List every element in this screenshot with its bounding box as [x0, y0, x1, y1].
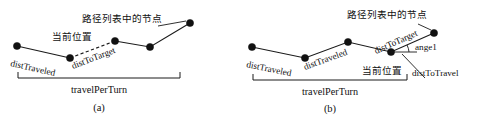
dist-traveled-label: distTraveled: [10, 58, 57, 78]
path-node: [430, 29, 437, 36]
travel-per-turn-label: travelPerTurn: [302, 86, 358, 97]
path-node: [13, 42, 20, 49]
angle-arc: [407, 45, 409, 52]
figure-container: 路径列表中的节点 当前位置 distTraveled distToTarget …: [0, 0, 482, 120]
path-segment-a1: [17, 46, 70, 58]
path-node: [344, 38, 351, 45]
path-node: [146, 43, 153, 50]
node-list-leader-line: [418, 24, 431, 30]
node-list-leader-line: [158, 21, 186, 26]
travel-per-turn-label: travelPerTurn: [71, 84, 127, 95]
panel-b: 路径列表中的节点 distToTarget ange1 distTraveled…: [241, 0, 482, 120]
node-list-label: 路径列表中的节点: [82, 13, 162, 24]
panel-a: 路径列表中的节点 当前位置 distTraveled distToTarget …: [0, 0, 241, 120]
angle-label: ange1: [415, 42, 437, 52]
current-position-label: 当前位置: [52, 31, 92, 42]
panel-caption-a: (a): [93, 102, 105, 114]
current-position-label: 当前位置: [362, 65, 402, 76]
panel-caption-b: (b): [324, 103, 337, 115]
path-node: [111, 37, 118, 44]
path-segment-a3: [115, 23, 190, 47]
path-node: [248, 43, 255, 50]
path-node: [186, 19, 193, 26]
node-list-label: 路径列表中的节点: [347, 9, 427, 20]
dist-to-travel-label: distToTravel: [412, 68, 459, 78]
